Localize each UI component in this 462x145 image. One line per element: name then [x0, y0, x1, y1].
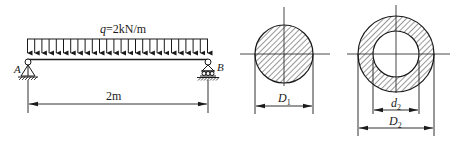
mechanics-diagram: q=2kN/m A: [0, 0, 462, 145]
solid-circular-section: D1: [240, 7, 330, 114]
beam-diagram: q=2kN/m A: [13, 22, 224, 113]
pin-support-a: [18, 59, 38, 80]
d2-outer-label: D2: [388, 114, 402, 130]
d1-label: D1: [277, 91, 291, 107]
span-label: 2m: [106, 89, 122, 103]
distributed-load: [27, 39, 208, 53]
support-b-label: B: [217, 61, 224, 73]
d2-inner-label: d2: [391, 96, 401, 112]
hollow-circular-section: d2 D2: [347, 5, 450, 136]
roller-support-b: [197, 59, 219, 81]
load-label: q=2kN/m: [100, 22, 147, 36]
support-a-label: A: [13, 63, 21, 75]
